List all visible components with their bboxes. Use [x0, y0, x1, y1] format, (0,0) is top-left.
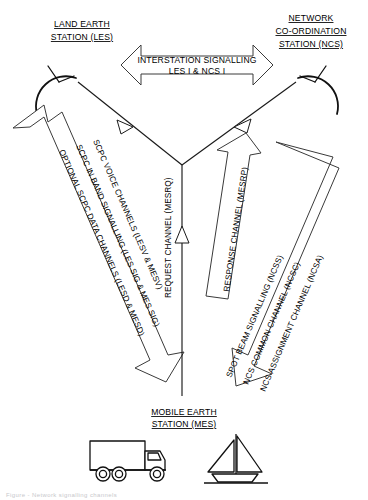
- bottom-caption-fragment: Figure - Network signalling channels: [6, 492, 117, 498]
- mes-station-label: MOBILE EARTH STATION (MES): [151, 407, 217, 429]
- ncs-label-line2: CO-ORDINATION: [275, 26, 346, 36]
- ncs-satellite-dish-icon: [298, 66, 338, 114]
- interstation-label-line1: INTERSTATION SIGNALLING: [137, 55, 256, 65]
- les-label-line1: LAND EARTH: [54, 19, 110, 29]
- ncs-label-line1: NETWORK: [289, 13, 334, 23]
- les-mes-label-line2: SCPC IN BAND SIGNALLING (LES SIG & MES S…: [74, 143, 161, 328]
- les-label-line2: STATION (LES): [51, 32, 113, 42]
- interstation-signalling-arrow: [121, 45, 273, 85]
- truck-icon: [90, 441, 166, 481]
- sailboat-icon: [204, 434, 268, 483]
- les-mes-label-line3: OPTIONAL SCPC DATA CHANNELS (LESD & MESD…: [57, 148, 146, 337]
- ncs-mes-channel-arrow: [232, 142, 339, 386]
- network-signalling-diagram: LAND EARTH STATION (LES) NETWORK CO-ORDI…: [0, 0, 368, 500]
- ncs-station-label: NETWORK CO-ORDINATION STATION (NCS): [275, 13, 346, 49]
- interstation-label-line2: LES I & NCS I: [169, 66, 225, 76]
- mes-label-line1: MOBILE EARTH: [151, 407, 217, 417]
- les-to-hub-line: [78, 82, 182, 165]
- request-channel-label-text: REQUEST CHANNEL (MESRQ): [164, 177, 173, 298]
- request-channel-label: REQUEST CHANNEL (MESRQ): [164, 177, 173, 298]
- ncs-label-line3: STATION (NCS): [279, 39, 343, 49]
- diagram-canvas: LAND EARTH STATION (LES) NETWORK CO-ORDI…: [0, 0, 368, 500]
- les-station-label: LAND EARTH STATION (LES): [51, 19, 113, 42]
- mes-label-line2: STATION (MES): [152, 419, 217, 429]
